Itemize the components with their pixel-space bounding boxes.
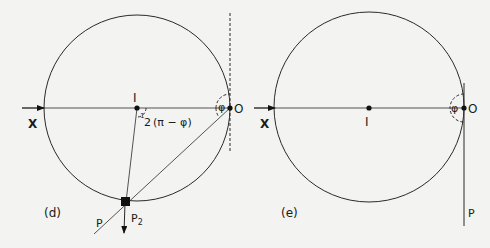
label-phi-d: φ — [218, 101, 225, 114]
label-pi-minus-phi: (π − φ) — [153, 116, 192, 129]
panel-e: X I O φ P (e) — [254, 12, 477, 226]
label-half-den: 2 — [144, 116, 151, 129]
label-I-e: I — [365, 115, 369, 129]
label-P-d: P — [96, 217, 103, 230]
label-O-d: O — [234, 102, 243, 116]
panel-label-d: (d) — [44, 206, 61, 220]
point-I-e — [366, 105, 371, 110]
label-X-d: X — [28, 117, 38, 131]
outgoing-arrow-icon — [124, 203, 125, 233]
line-I-P2 — [126, 108, 137, 202]
point-P2-marker — [121, 197, 130, 206]
point-O-d — [227, 105, 232, 110]
panel-label-e: (e) — [281, 206, 298, 220]
point-I-d — [134, 105, 139, 110]
label-phi-e: φ — [451, 102, 458, 115]
label-O-e: O — [468, 102, 477, 116]
label-I-d: I — [133, 91, 137, 105]
label-P-e: P — [468, 207, 475, 220]
panel-d: X I O φ 1 2 (π − φ) P P2 (d) — [22, 13, 243, 234]
label-X-e: X — [260, 117, 270, 131]
label-P2: P2 — [131, 212, 143, 227]
figure-canvas: X I O φ 1 2 (π − φ) P P2 (d) X I O φ P (… — [0, 0, 490, 248]
point-O-e — [461, 105, 466, 110]
